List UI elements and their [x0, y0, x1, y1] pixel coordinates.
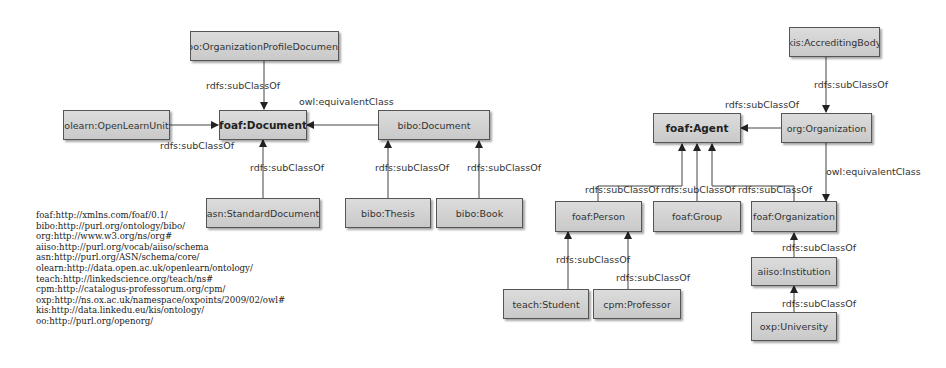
namespace-bibo: bibo:http://purl.org/ontology/bibo/	[36, 221, 285, 232]
namespace-oxp: oxp:http://ns.ox.ac.uk/namespace/oxpoint…	[36, 295, 285, 306]
node-foaf-person: foaf:Person	[555, 201, 642, 232]
node-cpm-professor: cpm:Professor	[593, 289, 681, 319]
node-label: bibo:Book	[456, 208, 503, 219]
namespace-asn: asn:http://purl.org/ASN/schema/core/	[36, 252, 285, 263]
namespace-teach: teach:http://linkedscience.org/teach/ns#	[36, 274, 285, 285]
edge-label-kis-subclassof: rdfs:subClassOf	[814, 79, 888, 90]
edge-label-group-subclassof: rdfs:subClassOf	[661, 184, 735, 195]
namespace-cpm: cpm:http://catalogus-professorum.org/cpm…	[36, 284, 285, 295]
edge-label-university-subclassof: rdfs:subClassOf	[782, 298, 856, 309]
node-foaf-agent: foaf:Agent	[653, 113, 741, 143]
node-label: kis:AccreditingBody	[789, 37, 880, 48]
node-oo-organization-profile-document: oo:OrganizationProfileDocument	[190, 31, 339, 61]
node-label: bibo:Thesis	[361, 208, 415, 219]
node-label: foaf:Agent	[666, 122, 729, 134]
node-bibo-thesis: bibo:Thesis	[345, 198, 431, 228]
node-kis-accreditingbody: kis:AccreditingBody	[789, 27, 880, 57]
node-foaf-organization: foaf:Organization	[751, 201, 837, 232]
node-bibo-document: bibo:Document	[378, 110, 490, 140]
node-teach-student: teach:Student	[503, 289, 589, 319]
node-label: foaf:Document	[219, 119, 307, 131]
node-label: foaf:Organization	[753, 211, 835, 222]
node-olearn-openlearnunit: olearn:OpenLearnUnit	[63, 110, 170, 140]
edge-label-thesis-subclassof: rdfs:subClassOf	[375, 162, 449, 173]
node-label: org:Organization	[787, 123, 867, 134]
node-label: oxp:University	[760, 321, 828, 332]
node-label: aiiso:Institution	[757, 266, 830, 277]
node-label: foaf:Group	[672, 211, 722, 222]
node-oxp-university: oxp:University	[751, 312, 837, 341]
edge-label-org-equivalentclass: owl:equivalentClass	[826, 166, 921, 177]
node-label: cpm:Professor	[603, 299, 671, 310]
edge-label-person-subclassof: rdfs:subClassOf	[585, 184, 659, 195]
node-label: foaf:Person	[572, 211, 625, 222]
namespace-org: org:http://www.w3.org/ns/org#	[36, 231, 285, 242]
node-foaf-group: foaf:Group	[653, 201, 741, 232]
edge-label-foaforg-subclassof: rdfs:subClassOf	[738, 184, 812, 195]
node-label: olearn:OpenLearnUnit	[64, 120, 168, 131]
namespace-legend: foaf:http://xmlns.com/foaf/0.1/ bibo:htt…	[36, 210, 285, 327]
edge-label-oo-subclassof: rdfs:subClassOf	[206, 80, 280, 91]
node-org-organization: org:Organization	[781, 113, 872, 143]
namespace-olearn: olearn:http://data.open.ac.uk/openlearn/…	[36, 263, 285, 274]
edge-label-olearn-subclassof: rdfs:subClassOf	[160, 140, 234, 151]
edge-label-bibo-equivalentclass: owl:equivalentClass	[299, 96, 394, 107]
edge-label-book-subclassof: rdfs:subClassOf	[467, 162, 541, 173]
edge-label-student-subclassof: rdfs:subClassOf	[556, 254, 630, 265]
namespace-oo: oo:http://purl.org/openorg/	[36, 316, 285, 327]
namespace-aiiso: aiiso:http://purl.org/vocab/aiiso/schema	[36, 242, 285, 253]
namespace-foaf: foaf:http://xmlns.com/foaf/0.1/	[36, 210, 285, 221]
node-aiiso-institution: aiiso:Institution	[751, 257, 837, 286]
node-label: bibo:Document	[398, 120, 471, 131]
node-label: teach:Student	[512, 299, 579, 310]
edge-label-org-agent-subclassof: rdfs:subClassOf	[725, 99, 799, 110]
namespace-kis: kis:http://data.linkedu.eu/kis/ontology/	[36, 305, 285, 316]
node-foaf-document: foaf:Document	[219, 110, 307, 140]
edge-label-institution-subclassof: rdfs:subClassOf	[782, 242, 856, 253]
node-label: oo:OrganizationProfileDocument	[190, 41, 339, 52]
edge-label-professor-subclassof: rdfs:subClassOf	[616, 272, 690, 283]
edge-label-asn-subclassof: rdfs:subClassOf	[250, 162, 324, 173]
node-bibo-book: bibo:Book	[436, 198, 523, 228]
